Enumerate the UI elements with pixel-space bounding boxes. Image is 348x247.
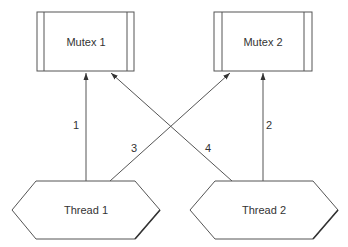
mutex-1-node: Mutex 1 xyxy=(37,12,134,71)
arrow-3 xyxy=(110,73,230,181)
edge-2-label: 2 xyxy=(266,119,272,131)
edge-4: 4 xyxy=(111,73,232,181)
deadlock-diagram: Mutex 1 Mutex 2 1 2 3 4 Thread 1 Thread … xyxy=(0,0,348,247)
arrow-4 xyxy=(111,73,232,181)
thread-1-node: Thread 1 xyxy=(12,181,160,239)
thread-1-label: Thread 1 xyxy=(64,204,108,216)
thread-2-node: Thread 2 xyxy=(190,181,338,239)
edge-1: 1 xyxy=(73,73,86,181)
edge-2: 2 xyxy=(263,73,272,181)
edge-3: 3 xyxy=(110,73,230,181)
mutex-2-node: Mutex 2 xyxy=(214,12,312,71)
edge-4-label: 4 xyxy=(205,142,211,154)
edge-1-label: 1 xyxy=(73,119,79,131)
thread-2-label: Thread 2 xyxy=(242,204,286,216)
mutex-2-label: Mutex 2 xyxy=(243,36,282,48)
edge-3-label: 3 xyxy=(131,142,137,154)
mutex-1-label: Mutex 1 xyxy=(66,36,105,48)
